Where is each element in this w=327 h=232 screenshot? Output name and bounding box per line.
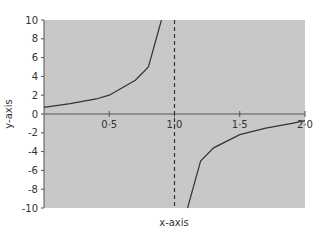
y-tick-label: -2: [28, 127, 38, 138]
y-tick-label: -6: [28, 165, 38, 176]
y-tick-label: -8: [28, 184, 38, 195]
y-tick-label: 6: [32, 52, 38, 63]
y-tick-label: 2: [32, 90, 38, 101]
y-axis-ticks: 1086420-2-4-6-8-10: [22, 15, 44, 214]
y-tick-label: -10: [22, 203, 38, 214]
chart: 1086420-2-4-6-8-10 0·51·01·52·0 x-axis y…: [0, 0, 327, 232]
x-tick-label: 0·5: [101, 119, 117, 130]
x-tick-label: 1·5: [232, 119, 248, 130]
y-tick-label: 0: [32, 109, 38, 120]
y-tick-label: 10: [25, 15, 38, 26]
y-tick-label: -4: [28, 146, 38, 157]
x-axis-label: x-axis: [159, 217, 189, 228]
y-axis-label: y-axis: [3, 99, 14, 128]
y-tick-label: 8: [32, 33, 38, 44]
y-tick-label: 4: [32, 71, 38, 82]
